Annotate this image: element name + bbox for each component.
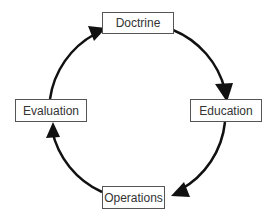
node-education: Education [190, 99, 262, 122]
node-label: Doctrine [116, 16, 161, 30]
arrow-doctrine-to-education [173, 30, 225, 90]
node-doctrine: Doctrine [102, 12, 174, 34]
node-label: Education [199, 104, 252, 118]
node-label: Operations [104, 191, 163, 205]
arrow-education-to-operations [180, 122, 225, 190]
arrow-evaluation-to-doctrine [50, 34, 95, 99]
node-label: Evaluation [23, 104, 79, 118]
arrow-operations-to-evaluation [52, 130, 102, 192]
arrowhead-evaluation [46, 122, 60, 138]
node-evaluation: Evaluation [15, 99, 87, 122]
node-operations: Operations [102, 186, 165, 209]
